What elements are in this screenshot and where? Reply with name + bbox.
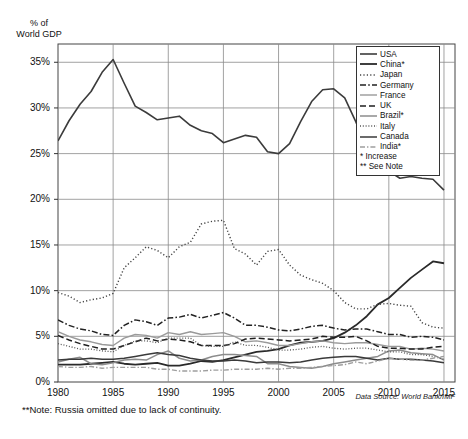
series-line-germany bbox=[58, 313, 444, 340]
legend-label: China* bbox=[380, 60, 405, 69]
y-tick-label: 0% bbox=[16, 376, 50, 387]
y-tick-label: 5% bbox=[16, 330, 50, 341]
y-tick-label: 35% bbox=[16, 56, 50, 67]
x-tick-label: 2005 bbox=[314, 387, 354, 398]
legend-item-china[interactable]: China* bbox=[360, 59, 437, 69]
x-tick-label: 2000 bbox=[259, 387, 299, 398]
series-line-uk bbox=[58, 335, 444, 349]
legend-item-japan[interactable]: Japan bbox=[360, 70, 437, 80]
legend-item-brazil[interactable]: Brazil* bbox=[360, 111, 437, 121]
legend-footnote: * Increase bbox=[360, 152, 437, 162]
legend-swatch-icon bbox=[360, 60, 377, 68]
series-line-japan bbox=[58, 220, 444, 328]
legend-label: Brazil* bbox=[380, 111, 404, 120]
legend-label: Germany bbox=[380, 81, 414, 90]
legend-swatch-icon bbox=[360, 143, 377, 151]
y-tick-label: 10% bbox=[16, 285, 50, 296]
footnote: **Note: Russia omitted due to lack of co… bbox=[22, 404, 221, 415]
legend-swatch-icon bbox=[360, 122, 377, 130]
legend-label: France bbox=[380, 91, 405, 100]
x-tick-label: 1995 bbox=[203, 387, 243, 398]
x-tick-label: 2010 bbox=[369, 387, 409, 398]
legend-swatch-icon bbox=[360, 81, 377, 89]
legend-label: Japan bbox=[380, 70, 402, 79]
x-tick-label: 1980 bbox=[38, 387, 78, 398]
y-tick-label: 15% bbox=[16, 239, 50, 250]
legend-label: Italy bbox=[380, 122, 395, 131]
legend-footnote: ** See Note bbox=[360, 162, 437, 172]
legend-swatch-icon bbox=[360, 112, 377, 120]
legend-label: Canada bbox=[380, 132, 409, 141]
chart-legend: USAChina*JapanGermanyFranceUKBrazil*Ital… bbox=[356, 46, 440, 176]
legend-item-canada[interactable]: Canada bbox=[360, 131, 437, 141]
series-line-canada bbox=[58, 353, 444, 363]
x-tick-label: 1990 bbox=[148, 387, 188, 398]
legend-item-uk[interactable]: UK bbox=[360, 100, 437, 110]
legend-label: USA bbox=[380, 50, 397, 59]
gdp-share-chart: % of World GDP USAChina*JapanGermanyFran… bbox=[0, 0, 468, 439]
x-tick-label: 2015 bbox=[424, 387, 464, 398]
legend-label: UK bbox=[380, 101, 391, 110]
legend-swatch-icon bbox=[360, 102, 377, 110]
legend-swatch-icon bbox=[360, 91, 377, 99]
y-tick-label: 25% bbox=[16, 148, 50, 159]
legend-swatch-icon bbox=[360, 133, 377, 141]
legend-label: India* bbox=[380, 142, 401, 151]
legend-swatch-icon bbox=[360, 71, 377, 79]
legend-item-germany[interactable]: Germany bbox=[360, 80, 437, 90]
y-tick-label: 30% bbox=[16, 102, 50, 113]
y-tick-label: 20% bbox=[16, 193, 50, 204]
x-tick-label: 1985 bbox=[93, 387, 133, 398]
legend-item-italy[interactable]: Italy bbox=[360, 121, 437, 131]
legend-item-india[interactable]: India* bbox=[360, 142, 437, 152]
legend-swatch-icon bbox=[360, 50, 377, 58]
legend-item-usa[interactable]: USA bbox=[360, 49, 437, 59]
legend-item-france[interactable]: France bbox=[360, 90, 437, 100]
y-axis-title: % of World GDP bbox=[6, 18, 72, 40]
